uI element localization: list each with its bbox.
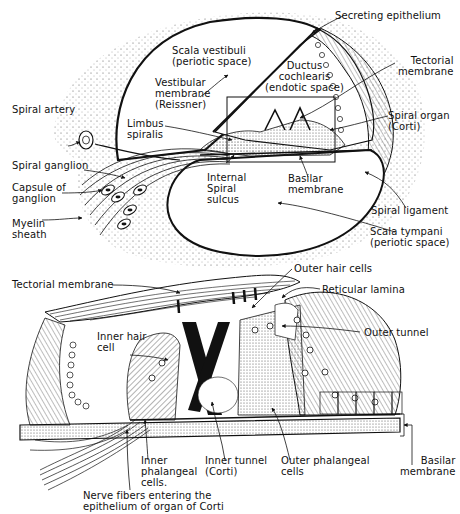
label-myelin-sheath: Myelin sheath bbox=[12, 218, 47, 240]
label-outer-hair-cells: Outer hair cells bbox=[294, 263, 372, 274]
cochlea-illustration bbox=[0, 0, 460, 514]
label-reticular-lamina: Reticular lamina bbox=[322, 284, 405, 295]
label-spiral-organ: Spiral organ (Corti) bbox=[388, 110, 450, 132]
label-tectorial-membrane-bottom: Tectorial membrane bbox=[12, 279, 114, 290]
label-basilar-membrane-bottom: Basilar membrane bbox=[400, 455, 456, 477]
label-limbus-spiralis: Limbus spiralis bbox=[127, 118, 164, 140]
label-inner-phalangeal-cells: Inner phalangeal cells. bbox=[141, 455, 197, 488]
label-nerve-fibers: Nerve fibers entering the epithelium of … bbox=[83, 490, 224, 512]
label-spiral-ligament: Spiral ligament bbox=[371, 205, 448, 216]
label-scala-tympani: Scala tympani (periotic space) bbox=[370, 226, 450, 248]
label-secreting-epithelium: Secreting epithelium bbox=[335, 10, 441, 21]
label-vestibular-membrane: Vestibular membrane (Reissner) bbox=[155, 77, 211, 110]
label-internal-spiral-sulcus: Internal Spiral sulcus bbox=[207, 172, 246, 205]
label-outer-tunnel: Outer tunnel bbox=[364, 327, 429, 338]
label-scala-vestibuli: Scala vestibuli (periotic space) bbox=[172, 45, 252, 67]
label-capsule-of-ganglion: Capsule of ganglion bbox=[12, 182, 66, 204]
label-basilar-membrane-top: Basilar membrane bbox=[288, 173, 344, 195]
label-ductus-cochlearis: Ductus cochlearis (endotic space) bbox=[265, 60, 344, 93]
label-spiral-ganglion: Spiral ganglion bbox=[12, 160, 88, 171]
label-tectorial-membrane-top: Tectorial membrane bbox=[398, 55, 454, 77]
label-inner-tunnel: Inner tunnel (Corti) bbox=[205, 455, 267, 477]
label-spiral-artery: Spiral artery bbox=[12, 104, 75, 115]
label-outer-phalangeal-cells: Outer phalangeal cells bbox=[281, 455, 370, 477]
label-inner-hair-cell: Inner hair cell bbox=[97, 331, 146, 353]
